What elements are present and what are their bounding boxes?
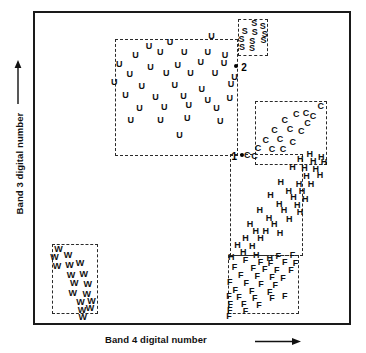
data-point-u: U	[176, 130, 183, 139]
data-point-w: W	[79, 270, 88, 279]
data-point-u: U	[152, 93, 159, 102]
data-point-w: W	[76, 258, 85, 267]
data-point-u: U	[208, 32, 215, 41]
data-point-f: F	[232, 263, 238, 272]
data-point-f: F	[282, 291, 288, 300]
data-point-u: U	[157, 48, 164, 57]
data-point-u: U	[184, 114, 191, 123]
data-point-s: S	[249, 44, 255, 53]
reference-label-2: 2	[241, 63, 247, 73]
data-point-c: C	[317, 102, 324, 111]
data-point-u: U	[198, 57, 205, 66]
data-point-u: U	[221, 58, 228, 67]
data-point-u: U	[213, 104, 220, 113]
data-point-h: H	[267, 191, 274, 200]
data-point-h: H	[278, 177, 285, 186]
data-point-u: U	[204, 48, 211, 57]
data-point-c: C	[298, 127, 305, 136]
data-point-f: F	[258, 279, 264, 288]
data-point-f: F	[288, 266, 294, 275]
data-point-f: F	[280, 273, 286, 282]
data-point-h: H	[297, 207, 304, 216]
data-point-u: U	[161, 102, 168, 111]
data-point-f: F	[256, 301, 262, 310]
data-point-u: U	[198, 84, 205, 93]
data-point-u: U	[132, 50, 139, 59]
data-point-u: U	[139, 81, 146, 90]
data-point-u: U	[136, 103, 143, 112]
data-point-u: U	[146, 41, 153, 50]
data-point-w: W	[65, 260, 74, 269]
data-point-u: U	[163, 69, 170, 78]
data-point-h: H	[308, 180, 315, 189]
data-point-c: C	[280, 145, 287, 154]
data-point-f: F	[262, 264, 268, 273]
data-point-c: C	[277, 135, 284, 144]
data-point-u: U	[171, 80, 178, 89]
reference-dot-1	[240, 153, 244, 157]
data-point-f: F	[243, 256, 249, 265]
data-point-u: U	[186, 101, 193, 110]
data-point-c: C	[303, 108, 310, 117]
data-point-u: U	[226, 94, 233, 103]
data-point-u: U	[167, 37, 174, 46]
data-point-h: H	[302, 195, 309, 204]
data-point-f: F	[268, 258, 274, 267]
data-point-f: F	[226, 312, 232, 321]
scatter-plot-figure: UUUUUUUUUUUUUUUUUUUUUUUUUUUUUUUUUUUUUSSS…	[0, 0, 366, 353]
data-point-u: U	[217, 116, 224, 125]
data-point-f: F	[272, 280, 278, 289]
data-point-c: C	[290, 138, 297, 147]
data-point-u: U	[127, 70, 134, 79]
data-point-h: H	[257, 205, 264, 214]
data-point-u: U	[111, 77, 118, 86]
data-point-w: W	[53, 261, 62, 270]
plot-frame: UUUUUUUUUUUUUUUUUUUUUUUUUUUUUUUUUUUUUSSS…	[33, 11, 351, 325]
data-point-w: W	[78, 312, 87, 321]
data-point-u: U	[147, 62, 154, 71]
data-point-u: U	[122, 91, 129, 100]
data-point-h: H	[277, 229, 284, 238]
data-point-s: S	[261, 35, 267, 44]
data-point-f: F	[243, 306, 249, 315]
data-point-u: U	[128, 115, 135, 124]
data-point-h: H	[289, 162, 296, 171]
data-point-c: C	[293, 109, 300, 118]
data-point-c: C	[304, 118, 311, 127]
data-point-h: H	[286, 215, 293, 224]
data-point-f: F	[282, 258, 288, 267]
data-point-f: F	[276, 252, 282, 261]
data-point-u: U	[175, 60, 182, 69]
data-point-c: C	[287, 125, 294, 134]
y-axis-label: Band 3 digital number	[14, 89, 25, 239]
data-point-h: H	[242, 233, 249, 242]
x-axis-arrow-icon	[255, 333, 301, 344]
data-point-u: U	[187, 69, 194, 78]
data-point-s: S	[239, 43, 245, 52]
data-point-u: U	[157, 116, 164, 125]
data-point-u: U	[181, 47, 188, 56]
data-point-c: C	[269, 144, 276, 153]
data-point-u: U	[212, 68, 219, 77]
data-point-f: F	[269, 293, 275, 302]
data-point-u: U	[116, 59, 123, 68]
reference-dot-2	[234, 64, 238, 68]
reference-label-1: 1	[231, 152, 237, 162]
x-axis-label: Band 4 digital number	[105, 334, 207, 345]
data-point-u: U	[204, 95, 211, 104]
data-point-u: U	[228, 79, 235, 88]
data-point-h: H	[257, 234, 264, 243]
data-point-h: H	[321, 157, 328, 166]
data-point-h: H	[317, 170, 324, 179]
